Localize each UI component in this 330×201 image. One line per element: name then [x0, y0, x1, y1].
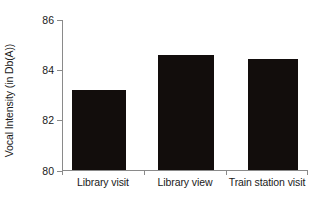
plot-area: 80 82 84 86 [62, 20, 308, 171]
bar-library-visit [72, 90, 126, 170]
x-tick-mark [62, 171, 63, 175]
y-tick-label: 86 [42, 14, 54, 26]
x-tick-mark [226, 171, 227, 175]
y-axis-line [62, 20, 63, 171]
bar-chart-figure: Vocal Intensity (in Db(A)) 80 82 84 86 [0, 0, 330, 201]
y-tick-label: 84 [42, 64, 54, 76]
y-tick-mark [57, 70, 62, 71]
bar-train-station-visit [248, 59, 298, 170]
y-axis-title: Vocal Intensity (in Db(A)) [0, 0, 18, 201]
x-axis-labels: Library visit Library view Train station… [62, 176, 308, 192]
x-label-2: Train station visit [229, 176, 306, 188]
x-tick-mark [307, 171, 308, 175]
y-tick-label: 82 [42, 114, 54, 126]
x-axis-line [62, 170, 308, 171]
bar-library-view [158, 55, 214, 170]
y-tick-mark [57, 20, 62, 21]
x-tick-mark [144, 171, 145, 175]
y-tick-mark [57, 120, 62, 121]
x-label-0: Library visit [77, 176, 129, 188]
y-tick-label: 80 [42, 165, 54, 177]
x-label-1: Library view [158, 176, 213, 188]
